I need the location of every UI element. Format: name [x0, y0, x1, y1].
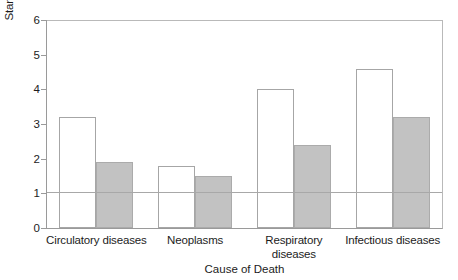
bar-chart: Standardised mortality ratio 0123456 Cir…	[0, 0, 458, 280]
bar-group	[158, 20, 232, 228]
x-axis-tick-label-line: diseases	[234, 247, 354, 261]
x-axis-title: Cause of Death	[47, 261, 442, 277]
bar-series-2[interactable]	[96, 162, 133, 228]
y-axis-tick-label: 1	[24, 186, 40, 200]
y-axis-tick-labels: 0123456	[24, 20, 40, 228]
y-axis-tick-label: 3	[24, 117, 40, 131]
bar-series-1[interactable]	[257, 89, 294, 228]
y-axis-tick-label: 2	[24, 152, 40, 166]
y-axis-title: Standardised mortality ratio	[0, 0, 18, 56]
bar-series-1[interactable]	[158, 166, 195, 228]
plot-area	[47, 20, 442, 228]
bar-series-2[interactable]	[195, 176, 232, 228]
reference-line-at-1	[47, 192, 442, 193]
bar-series-2[interactable]	[393, 117, 430, 228]
bar-group	[59, 20, 133, 228]
x-axis-tick-label-line: Infectious diseases	[333, 233, 453, 247]
y-axis-tick-label: 4	[24, 82, 40, 96]
bar-series-2[interactable]	[294, 145, 331, 228]
bar-group	[257, 20, 331, 228]
x-axis-tick-labels: Circulatory diseasesNeoplasmsRespiratory…	[47, 233, 442, 263]
bar-series-1[interactable]	[356, 69, 393, 228]
bar-group	[356, 20, 430, 228]
x-axis-tick-label: Infectious diseases	[333, 233, 453, 247]
y-axis-tick-label: 6	[24, 13, 40, 27]
bar-series-1[interactable]	[59, 117, 96, 228]
y-axis-tick-label: 5	[24, 48, 40, 62]
